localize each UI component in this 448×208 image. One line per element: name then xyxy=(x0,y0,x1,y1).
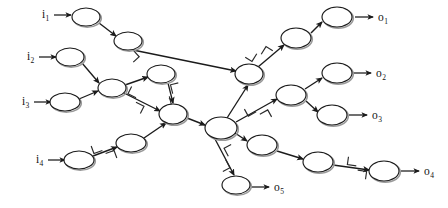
output-label-o2: o2 xyxy=(376,67,386,82)
graph-edge xyxy=(93,147,117,156)
graph-edge xyxy=(306,101,318,112)
graph-edge xyxy=(144,123,166,138)
input-label-subscript: 1 xyxy=(46,14,50,23)
edge-cut-marker xyxy=(213,144,240,171)
output-label-o4: o4 xyxy=(424,165,434,180)
cut-bracket-upper xyxy=(347,157,357,166)
graph-edge xyxy=(133,50,236,71)
output-label-base: o xyxy=(372,109,378,121)
graph-node xyxy=(281,28,311,48)
graph-node xyxy=(147,65,175,83)
output-label-base: o xyxy=(378,11,384,23)
output-label-base: o xyxy=(424,165,430,177)
cut-bracket-lower xyxy=(260,110,272,121)
output-label-subscript: 2 xyxy=(382,73,386,82)
graph-edge xyxy=(305,78,322,89)
graph-node xyxy=(72,8,100,26)
cut-bracket-upper xyxy=(171,83,181,94)
graph-edge xyxy=(187,118,205,125)
input-label-subscript: 3 xyxy=(26,101,30,110)
graph-node xyxy=(322,7,352,27)
graph-edge xyxy=(82,63,99,83)
graph-edge xyxy=(333,165,369,170)
graph-edge xyxy=(99,23,116,36)
output-label-subscript: 3 xyxy=(378,115,382,124)
graph-node xyxy=(116,134,146,152)
cut-bracket-lower xyxy=(357,170,367,179)
graph-node xyxy=(369,161,399,181)
graph-edge xyxy=(236,99,277,122)
graph-node xyxy=(235,64,263,84)
input-label-i3: i3 xyxy=(22,95,30,110)
cut-bracket-upper xyxy=(91,143,102,154)
graph-node xyxy=(159,104,187,124)
graph-edge xyxy=(277,151,303,159)
input-label-i1: i1 xyxy=(42,8,50,23)
graph-edge xyxy=(215,139,234,175)
graph-node xyxy=(247,135,277,155)
graph-node xyxy=(317,105,347,125)
output-label-o5: o5 xyxy=(274,181,284,196)
input-label-subscript: 4 xyxy=(40,159,44,168)
input-label-i2: i2 xyxy=(27,50,35,65)
output-label-subscript: 4 xyxy=(430,171,434,180)
graph-edge xyxy=(258,45,284,67)
input-label-i4: i4 xyxy=(36,153,44,168)
graph-node xyxy=(98,79,126,97)
network-diagram: i1i2i3i4o1o2o3o4o5 xyxy=(0,0,448,208)
cut-bracket-lower xyxy=(219,160,230,172)
cut-bracket-lower xyxy=(132,102,144,113)
graph-canvas: i1i2i3i4o1o2o3o4o5 xyxy=(0,0,448,208)
graph-node xyxy=(56,48,84,66)
graph-edge xyxy=(311,22,322,33)
graph-edge xyxy=(124,93,160,111)
output-label-subscript: 1 xyxy=(384,17,388,26)
output-label-base: o xyxy=(376,67,382,79)
graph-node xyxy=(64,151,94,169)
graph-node xyxy=(205,117,237,139)
graph-node xyxy=(322,63,352,83)
graph-node xyxy=(222,176,250,194)
output-label-subscript: 5 xyxy=(280,187,284,196)
graph-edge xyxy=(79,91,98,99)
graph-node xyxy=(114,32,142,50)
output-label-base: o xyxy=(274,181,280,193)
graph-edge xyxy=(125,77,148,85)
cut-bracket-upper xyxy=(245,50,257,62)
output-label-o1: o1 xyxy=(378,11,388,26)
input-label-subscript: 2 xyxy=(31,56,35,65)
cut-bracket-upper xyxy=(224,144,235,156)
edge-cut-marker xyxy=(244,99,271,126)
output-label-o3: o3 xyxy=(372,109,382,124)
graph-node xyxy=(303,152,333,172)
cut-bracket-upper xyxy=(244,105,256,116)
cut-bracket-lower xyxy=(106,150,117,161)
graph-edge xyxy=(227,85,248,118)
graph-node xyxy=(50,93,80,111)
graph-node xyxy=(276,85,306,105)
